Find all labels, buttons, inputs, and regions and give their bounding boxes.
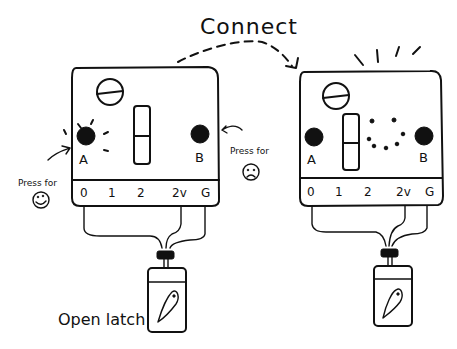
button-b[interactable]	[415, 127, 433, 145]
right-button-b-label: B	[419, 150, 428, 165]
latch-box	[374, 266, 412, 326]
right-pin-g: G	[425, 185, 434, 199]
happy-face-icon	[33, 192, 49, 208]
button-b[interactable]	[191, 125, 209, 143]
left-pin-2v: 2v	[172, 186, 187, 200]
button-a[interactable]	[305, 128, 323, 146]
right-pin-0: 0	[307, 185, 315, 199]
connector	[157, 251, 174, 259]
connect-title: Connect	[200, 14, 298, 39]
sketch-diagram	[0, 0, 457, 349]
connect-arrow	[178, 41, 292, 66]
right-pin-2: 2	[364, 185, 372, 199]
open-latch-label: Open latch	[58, 310, 145, 329]
right-pin-2v: 2v	[396, 185, 411, 199]
left-pin-g: G	[201, 186, 210, 200]
led-smile-icon	[367, 118, 405, 150]
connector	[381, 249, 398, 257]
left-pin-2: 2	[137, 186, 145, 200]
button-a[interactable]	[77, 127, 95, 145]
left-device	[33, 67, 259, 332]
left-button-b-label: B	[195, 150, 204, 165]
press-for-sad-label: Press for	[230, 146, 269, 156]
sad-face-icon	[243, 164, 259, 180]
press-for-happy-label: Press for	[18, 178, 57, 188]
left-pin-1: 1	[108, 186, 116, 200]
right-pin-1: 1	[335, 185, 343, 199]
right-button-a-label: A	[307, 152, 316, 167]
left-pin-0: 0	[80, 186, 88, 200]
left-button-a-label: A	[79, 152, 88, 167]
